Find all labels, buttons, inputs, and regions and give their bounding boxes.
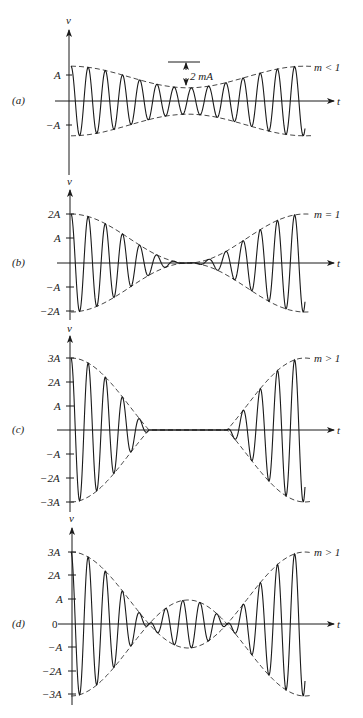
v-axis-label: v [67, 322, 72, 334]
panel-label: (d) [12, 617, 25, 630]
condition-label: m > 1 [314, 546, 340, 558]
panel-label: (b) [12, 256, 25, 269]
envelope-lower [71, 114, 311, 136]
t-axis-label: t [337, 424, 341, 436]
tick-label: A [55, 593, 63, 605]
tick-label: A [53, 400, 61, 412]
tick-label: −2A [40, 472, 60, 484]
tick-label: −2A [40, 305, 60, 317]
tick-label: 3A [47, 352, 61, 364]
panel-d: v t (d) 3A 2A A 0 −A −2A −3A m > 1 [12, 512, 341, 705]
t-axis-label: t [337, 95, 341, 107]
tick-label: 0 [52, 618, 58, 630]
envelope-upper [71, 552, 311, 648]
tick-label: −2A [42, 665, 62, 677]
t-axis-label: t [337, 257, 341, 269]
tick-label: 2A [48, 208, 61, 220]
annotation-label: 2 mA [190, 70, 213, 82]
tick-label: −A [48, 641, 62, 653]
v-axis-label: v [67, 175, 72, 187]
panel-c: v t (c) 3A 2A A −A −2A −3A m > 1 [12, 322, 341, 512]
envelope-lower [71, 430, 311, 502]
t-axis-label: t [337, 618, 341, 630]
v-axis-label: v [69, 512, 74, 524]
panel-label: (c) [12, 423, 25, 436]
tick-label: −3A [40, 496, 60, 508]
am-modulation-figure: v t (a) A −A m < 1 2 mA v t (b) 2A A −A … [0, 0, 363, 718]
tick-label: −A [46, 119, 60, 131]
panel-label: (a) [12, 94, 25, 107]
tick-label: −A [46, 281, 60, 293]
tick-label: −A [46, 448, 60, 460]
panel-b: v t (b) 2A A −A −2A m = 1 [12, 175, 341, 320]
tick-label: 3A [47, 546, 61, 558]
v-axis-label: v [66, 14, 71, 26]
tick-label: A [53, 232, 61, 244]
condition-label: m > 1 [314, 352, 340, 364]
tick-label: −3A [42, 688, 62, 700]
tick-label: 2A [48, 569, 61, 581]
panel-a: v t (a) A −A m < 1 2 mA [12, 14, 341, 175]
condition-label: m < 1 [314, 61, 340, 73]
envelope-lower [71, 263, 311, 312]
tick-label: 2A [48, 376, 61, 388]
condition-label: m = 1 [314, 208, 340, 220]
tick-label: A [53, 69, 61, 81]
